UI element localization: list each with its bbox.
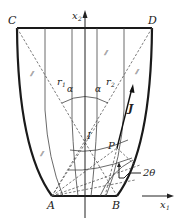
- arc-lower-2: [68, 158, 132, 170]
- label-p: P: [107, 140, 115, 151]
- label-d: D: [147, 14, 157, 27]
- label-r1-sub: 1: [62, 81, 66, 88]
- j-vector: [117, 88, 132, 148]
- streamline-4: [106, 28, 124, 196]
- label-c: C: [8, 14, 17, 27]
- diagram-canvas: C D A B I P J x 2 x 1 r 1 r 2 α α 2θ ⫽ ⫽…: [0, 0, 181, 218]
- streamline-2: [72, 28, 78, 196]
- label-r2-sub: 2: [110, 81, 115, 88]
- hatch-mark-left-lower: ⫽: [39, 150, 45, 158]
- label-j: J: [126, 102, 134, 115]
- j-arrowhead: [130, 84, 135, 93]
- label-a: A: [46, 199, 55, 212]
- label-alpha-left: α: [67, 84, 73, 94]
- label-x2-sub: 2: [77, 15, 82, 22]
- dashed-line-d-to-a: [52, 28, 152, 196]
- label-alpha-right: α: [95, 84, 101, 94]
- dashed-p-2: [105, 148, 117, 196]
- streamline-3: [91, 28, 97, 196]
- dashed-line-c-to-b: [17, 28, 117, 196]
- hatch-mark-right-upper: ⫽: [134, 68, 140, 76]
- x1-arrowhead: [167, 194, 174, 199]
- label-two-theta: 2θ: [142, 167, 155, 178]
- dashed-fan-a-4: [52, 120, 100, 196]
- label-b: B: [111, 199, 120, 212]
- hatch-mark-left-upper: ⫽: [29, 70, 35, 78]
- x2-arrowhead: [83, 10, 88, 18]
- hatch-mark-top-right: ⫽: [103, 49, 109, 57]
- streamline-1: [45, 28, 63, 196]
- label-i: I: [86, 130, 92, 141]
- left-boundary-curve: [17, 28, 52, 196]
- label-x1-sub: 1: [166, 204, 170, 211]
